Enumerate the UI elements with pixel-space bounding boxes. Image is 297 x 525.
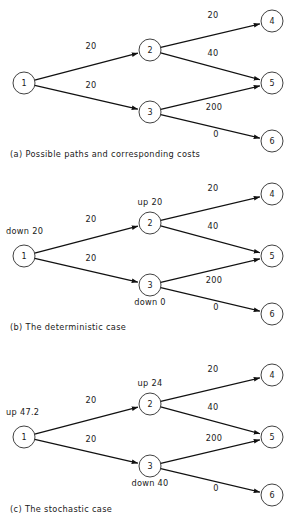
edge-1-to-2 [35,53,138,80]
node-4: 4 [261,10,283,32]
edge-cost-label-3-6: 0 [213,129,219,139]
node-label-5: 5 [269,79,274,88]
node-5: 5 [261,245,283,267]
edge-cost-label-2-5: 40 [207,48,218,58]
caption-c: (c) The stochastic case [10,504,112,514]
edge-cost-label-3-5: 200 [206,102,223,112]
node-label-2: 2 [147,46,152,55]
node-6: 6 [261,130,283,152]
caption-b: (b) The deterministic case [10,322,126,332]
edge-cost-label-1-3: 20 [85,434,96,444]
edge-2-to-4 [161,378,260,402]
node-4: 4 [261,183,283,205]
diagram-b: 202020402000123456down 20up 20down 0 [0,170,297,340]
edge-2-to-4 [161,197,260,221]
node-label-4: 4 [269,371,274,380]
node-label-1: 1 [21,252,26,261]
node-label-6: 6 [269,310,274,319]
node-label-1: 1 [21,433,26,442]
edge-cost-label-3-6: 0 [213,302,219,312]
edge-2-to-4 [161,24,260,48]
edge-cost-label-2-5: 40 [207,221,218,231]
node-label-2: 2 [147,400,152,409]
diagram-a: 202020402000123456 [0,0,297,170]
node-label-4: 4 [269,17,274,26]
edge-cost-label-2-5: 40 [207,402,218,412]
state-label-c-2: down 40 [131,478,168,488]
edge-3-to-6 [161,115,260,139]
node-1: 1 [13,426,35,448]
node-3: 3 [139,455,161,477]
edge-3-to-5 [161,440,260,464]
node-3: 3 [139,274,161,296]
edge-cost-label-2-4: 20 [207,10,218,20]
edge-cost-label-1-3: 20 [85,80,96,90]
edge-cost-label-2-4: 20 [207,364,218,374]
node-6: 6 [261,484,283,506]
node-2: 2 [139,393,161,415]
node-label-3: 3 [147,281,152,290]
node-6: 6 [261,303,283,325]
node-label-3: 3 [147,108,152,117]
node-label-5: 5 [269,252,274,261]
edge-3-to-6 [161,288,260,312]
edge-cost-label-3-6: 0 [213,483,219,493]
node-label-1: 1 [21,79,26,88]
panel-possible-paths: 202020402000123456 (a) Possible paths an… [0,0,297,170]
caption-a: (a) Possible paths and corresponding cos… [10,149,200,159]
node-3: 3 [139,101,161,123]
edge-cost-label-3-5: 200 [206,275,223,285]
node-4: 4 [261,364,283,386]
state-label-b-2: down 0 [134,297,166,307]
edge-1-to-2 [35,407,138,434]
edge-cost-label-2-4: 20 [207,183,218,193]
state-label-b-0: down 20 [6,226,43,236]
node-label-6: 6 [269,137,274,146]
edge-cost-label-1-2: 20 [85,214,96,224]
edge-cost-label-1-2: 20 [85,41,96,51]
edge-cost-label-1-2: 20 [85,395,96,405]
state-label-c-0: up 47.2 [6,407,39,417]
edge-cost-label-3-5: 200 [206,433,223,443]
node-5: 5 [261,426,283,448]
panel-stochastic-case: 202020402000123456up 47.2up 24down 40 (c… [0,340,297,525]
node-2: 2 [139,212,161,234]
node-1: 1 [13,72,35,94]
panel-deterministic-case: 202020402000123456down 20up 20down 0 (b)… [0,170,297,340]
node-1: 1 [13,245,35,267]
edge-3-to-6 [161,469,260,493]
node-2: 2 [139,39,161,61]
edge-1-to-2 [35,226,138,253]
node-label-6: 6 [269,491,274,500]
state-label-c-1: up 24 [138,378,163,388]
diagram-c: 202020402000123456up 47.2up 24down 40 [0,340,297,525]
node-5: 5 [261,72,283,94]
node-label-2: 2 [147,219,152,228]
node-label-4: 4 [269,190,274,199]
edge-cost-label-1-3: 20 [85,253,96,263]
node-label-5: 5 [269,433,274,442]
node-label-3: 3 [147,462,152,471]
state-label-b-1: up 20 [138,197,163,207]
